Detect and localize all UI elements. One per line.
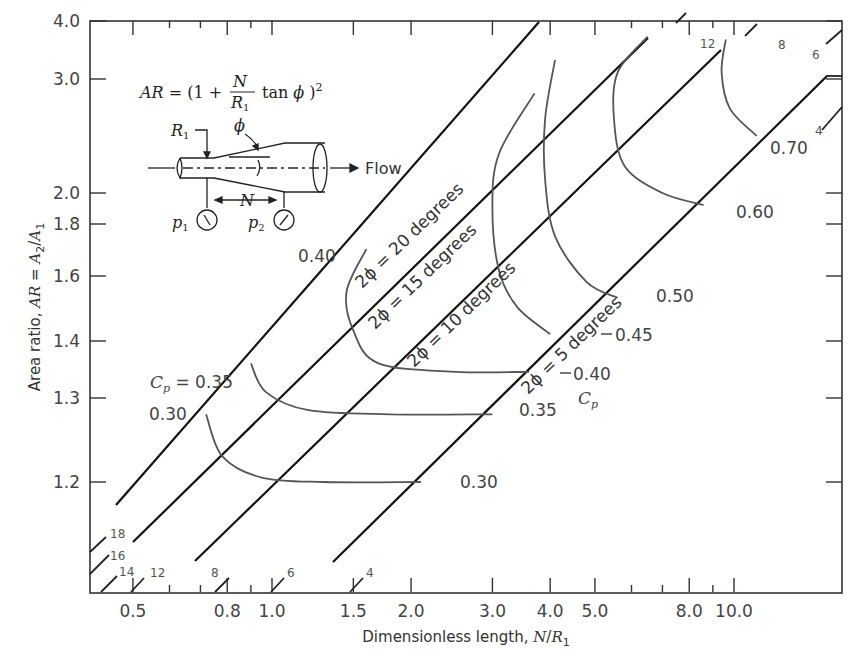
svg-text:4: 4 bbox=[815, 124, 823, 138]
area-ratio-chart: 0.50.81.01.52.03.04.05.08.010.01.21.31.4… bbox=[0, 0, 859, 655]
svg-text:6: 6 bbox=[812, 48, 820, 62]
svg-text:4: 4 bbox=[366, 566, 374, 580]
svg-text:16: 16 bbox=[110, 549, 125, 563]
x-tick-label: 2.0 bbox=[398, 601, 425, 621]
cp-curve bbox=[492, 93, 550, 334]
svg-text:12: 12 bbox=[700, 37, 715, 51]
line-15-degrees bbox=[133, 38, 648, 542]
svg-text:18: 18 bbox=[110, 527, 125, 541]
x-tick-label: 0.5 bbox=[119, 601, 146, 621]
cp-label-035: Cp = 0.35 bbox=[150, 372, 233, 395]
y-tick-label: 1.6 bbox=[53, 266, 80, 286]
cp-label-050: 0.50 bbox=[656, 286, 694, 306]
svg-text:8: 8 bbox=[211, 566, 219, 580]
svg-text:p2: p2 bbox=[248, 213, 265, 233]
svg-text:14: 14 bbox=[119, 565, 134, 579]
svg-text:N: N bbox=[232, 72, 248, 91]
y-tick-label: 4.0 bbox=[53, 11, 80, 31]
flow-label: Flow bbox=[365, 159, 402, 178]
axis-tick-labels: 0.50.81.01.52.03.04.05.08.010.01.21.31.4… bbox=[53, 11, 753, 621]
diffuser-diagram: AR = (1 + N R1 tan ϕ )2 bbox=[138, 72, 402, 233]
x-tick-label: 1.0 bbox=[258, 601, 285, 621]
cp-label-035-right: 0.35 bbox=[519, 400, 557, 420]
svg-text:p1: p1 bbox=[172, 213, 189, 233]
svg-text:12: 12 bbox=[150, 566, 165, 580]
svg-text:tan ϕ )2: tan ϕ )2 bbox=[262, 81, 323, 102]
cp-curve bbox=[613, 37, 703, 205]
svg-text:8: 8 bbox=[778, 38, 786, 52]
x-tick-label: 4.0 bbox=[537, 601, 564, 621]
x-tick-label: 3.0 bbox=[479, 601, 506, 621]
cp-label-040: 0.40 bbox=[573, 364, 611, 384]
y-tick-label: 1.8 bbox=[53, 214, 80, 234]
cp-label-045: 0.45 bbox=[615, 325, 653, 345]
x-tick-label: 8.0 bbox=[676, 601, 703, 621]
x-tick-label: 0.8 bbox=[214, 601, 241, 621]
y-tick-label: 3.0 bbox=[53, 69, 80, 89]
svg-text:R1: R1 bbox=[170, 121, 189, 141]
y-tick-label: 1.2 bbox=[53, 472, 80, 492]
cp-label-060: 0.60 bbox=[736, 202, 774, 222]
cp-label-030: 0.30 bbox=[460, 472, 498, 492]
x-tick-label: 10.0 bbox=[715, 601, 753, 621]
formula: AR = (1 + bbox=[138, 83, 222, 102]
cp-curve bbox=[544, 60, 618, 298]
x-tick-label: 5.0 bbox=[581, 601, 608, 621]
x-tick-label: 1.5 bbox=[340, 601, 367, 621]
svg-text:ϕ: ϕ bbox=[234, 116, 245, 135]
cp-curve bbox=[722, 40, 757, 136]
cp-label-070: 0.70 bbox=[770, 138, 808, 158]
x-axis-title: Dimensionless length, N/R1 bbox=[362, 628, 569, 649]
cp-curve bbox=[206, 414, 421, 482]
y-tick-label: 1.3 bbox=[53, 388, 80, 408]
line-5-degrees bbox=[333, 76, 827, 562]
y-tick-label: 2.0 bbox=[53, 183, 80, 203]
svg-text:N: N bbox=[239, 191, 255, 210]
cp-axis-label: Cp bbox=[578, 388, 598, 411]
svg-text:R1: R1 bbox=[230, 93, 249, 113]
cp-label-040-left: 0.40 bbox=[298, 246, 336, 266]
svg-text:6: 6 bbox=[287, 566, 295, 580]
cp-label-030-left: 0.30 bbox=[149, 404, 187, 424]
y-tick-label: 1.4 bbox=[53, 331, 80, 351]
y-axis-title: Area ratio, AR = A2/A1 bbox=[26, 223, 47, 391]
